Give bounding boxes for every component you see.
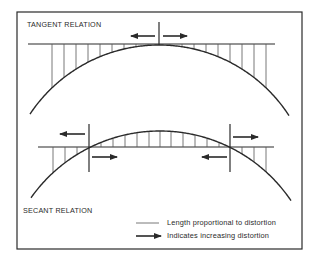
legend — [136, 223, 161, 236]
globe-arc — [30, 45, 289, 116]
secant-relation-panel — [31, 124, 291, 201]
tangent-relation-title: TANGENT RELATION — [27, 20, 101, 29]
tangent-relation-panel — [28, 22, 289, 116]
secant-relation-title: SECANT RELATION — [23, 206, 92, 215]
globe-arc — [31, 131, 291, 201]
legend-label-length: Length proportional to distortion — [167, 218, 276, 227]
legend-label-arrow: Indicates increasing distortion — [167, 231, 269, 240]
